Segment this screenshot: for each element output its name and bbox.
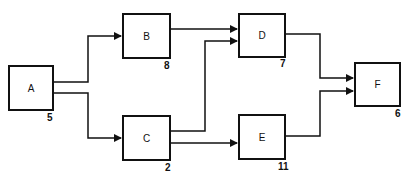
node-d: D <box>238 13 286 58</box>
edge-c-d <box>171 41 237 131</box>
node-b: B <box>122 13 171 59</box>
edge-e-f <box>286 91 353 136</box>
node-a: A <box>8 65 54 111</box>
edge-a-c <box>53 93 121 138</box>
node-c-duration: 2 <box>165 162 171 173</box>
node-f: F <box>354 62 401 107</box>
node-c-label: C <box>143 133 150 144</box>
node-f-duration: 6 <box>395 108 401 119</box>
node-e: E <box>238 114 286 160</box>
node-a-duration: 5 <box>47 112 53 123</box>
node-f-label: F <box>374 79 380 90</box>
node-e-duration: 11 <box>278 161 289 172</box>
node-d-duration: 7 <box>280 58 286 69</box>
edges-layer <box>0 0 408 178</box>
node-b-label: B <box>143 31 150 42</box>
edge-a-b <box>53 36 121 82</box>
node-d-label: D <box>258 30 265 41</box>
node-e-label: E <box>259 132 266 143</box>
edge-d-f <box>285 34 353 78</box>
node-b-duration: 8 <box>164 60 170 71</box>
node-c: C <box>122 115 171 161</box>
node-a-label: A <box>28 83 35 94</box>
